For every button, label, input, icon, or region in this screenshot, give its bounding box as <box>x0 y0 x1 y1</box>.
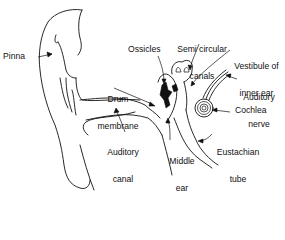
label-eustachian-tube-line1: Eustachian <box>212 148 264 157</box>
label-vestibule-line1: Vestibule of <box>228 62 285 71</box>
label-middle-ear-line1: Middle <box>164 157 200 166</box>
label-middle-ear-line2: ear <box>164 184 200 193</box>
label-auditory-canal-line2: canal <box>102 175 144 184</box>
label-eustachian-tube: Eustachian tube <box>212 130 264 193</box>
label-drum-membrane-line1: Drum <box>94 95 142 104</box>
label-middle-ear: Middle ear <box>164 139 200 202</box>
label-ossicles: Ossicles <box>128 45 160 54</box>
label-auditory-nerve-line1: Auditory <box>238 93 280 102</box>
label-semicircular-canals-line1: Semi circular <box>172 45 232 54</box>
label-auditory-nerve-line2: nerve <box>238 120 280 129</box>
label-semicircular-canals: Semi circular canals <box>172 27 232 90</box>
label-cochlea: Cochlea <box>235 106 267 115</box>
label-auditory-canal: Auditory canal <box>102 130 144 193</box>
label-eustachian-tube-line2: tube <box>212 175 264 184</box>
label-semicircular-canals-line2: canals <box>172 72 232 81</box>
cochlea-drawing <box>195 99 213 117</box>
label-pinna: Pinna <box>3 52 25 61</box>
label-auditory-canal-line1: Auditory <box>102 148 144 157</box>
